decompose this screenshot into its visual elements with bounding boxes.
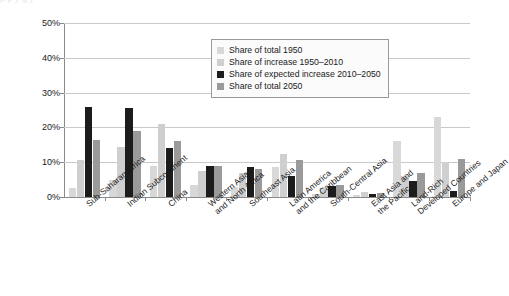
legend-item: Share of increase 1950–2010 — [217, 56, 381, 68]
x-axis-labels: Sub-Saharan AfricaIndian SubcontinentChi… — [0, 199, 487, 296]
legend-swatch-icon — [217, 83, 224, 90]
bar-group — [64, 23, 105, 197]
cropped-header-text: p p y g y — [0, 0, 34, 3]
legend-item: Share of total 2050 — [217, 80, 381, 92]
bar — [77, 160, 84, 197]
x-tick — [105, 197, 106, 201]
legend-label: Share of total 2050 — [229, 81, 302, 91]
x-tick — [186, 197, 187, 201]
x-tick — [348, 197, 349, 201]
cropped-header-artifact: p p y g y — [0, 0, 487, 9]
bar — [69, 188, 76, 197]
x-tick — [226, 197, 227, 201]
y-tick-label-50: 50% — [42, 18, 60, 28]
legend-label: Share of increase 1950–2010 — [229, 57, 343, 67]
y-tick-label-20: 20% — [42, 122, 60, 132]
bar — [353, 195, 360, 197]
x-tick — [470, 197, 471, 201]
y-tick-label-10: 10% — [42, 157, 60, 167]
legend-item: Share of total 1950 — [217, 44, 381, 56]
bar — [125, 108, 132, 197]
legend-swatch-icon — [217, 59, 224, 66]
bar — [206, 166, 213, 197]
bar — [198, 171, 205, 197]
legend-item: Share of expected increase 2010–2050 — [217, 68, 381, 80]
legend-label: Share of total 1950 — [229, 45, 302, 55]
chart-legend: Share of total 1950Share of increase 195… — [211, 39, 389, 98]
legend-swatch-icon — [217, 47, 224, 54]
y-tick-0 — [60, 197, 64, 198]
x-tick — [429, 197, 430, 201]
legend-label: Share of expected increase 2010–2050 — [229, 69, 381, 79]
y-tick-label-40: 40% — [42, 53, 60, 63]
bar — [158, 124, 165, 197]
bar — [190, 185, 197, 197]
legend-swatch-icon — [217, 71, 224, 78]
x-tick — [389, 197, 390, 201]
x-tick — [145, 197, 146, 201]
x-tick — [308, 197, 309, 201]
y-axis-labels: 0%10%20%30%40%50% — [26, 23, 60, 198]
x-tick — [267, 197, 268, 201]
bar — [361, 192, 368, 197]
bar — [85, 107, 92, 197]
y-tick-label-30: 30% — [42, 88, 60, 98]
